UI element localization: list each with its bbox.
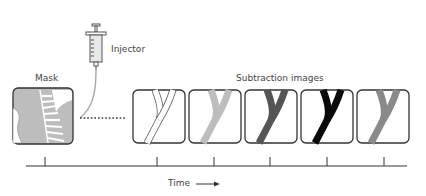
subtraction-frame: [189, 90, 241, 143]
syringe-icon: [86, 24, 106, 70]
angiography-diagram: [0, 0, 426, 196]
subtraction-frame: [301, 90, 353, 143]
mask-image: [13, 88, 73, 144]
mask-label: Mask: [35, 73, 58, 83]
timeline: [26, 157, 407, 166]
injector-tube: [80, 70, 96, 118]
injector-label: Injector: [111, 44, 145, 54]
time-arrow-icon: [196, 182, 220, 187]
subtraction-frame: [133, 90, 185, 143]
subtraction-frame: [357, 90, 409, 143]
subtraction-frame: [245, 90, 297, 143]
time-label: Time: [168, 178, 190, 188]
subtraction-label: Subtraction images: [236, 73, 324, 83]
